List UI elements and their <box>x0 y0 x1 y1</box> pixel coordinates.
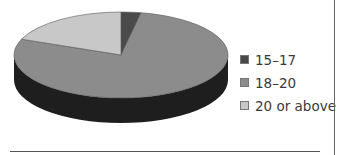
legend-swatch <box>240 55 249 64</box>
legend-label: 18–20 <box>255 75 296 91</box>
right-border <box>334 0 335 155</box>
legend-item-20-or-above: 20 or above <box>240 94 336 117</box>
legend-item-15-17: 15–17 <box>240 48 336 71</box>
legend-swatch <box>240 78 249 87</box>
legend-label: 15–17 <box>255 52 296 68</box>
bottom-divider <box>10 151 320 152</box>
legend-swatch <box>240 101 249 110</box>
legend-label: 20 or above <box>255 98 336 114</box>
pie-top-face <box>14 12 228 98</box>
chart-legend: 15–17 18–20 20 or above <box>240 48 336 117</box>
legend-item-18-20: 18–20 <box>240 71 336 94</box>
